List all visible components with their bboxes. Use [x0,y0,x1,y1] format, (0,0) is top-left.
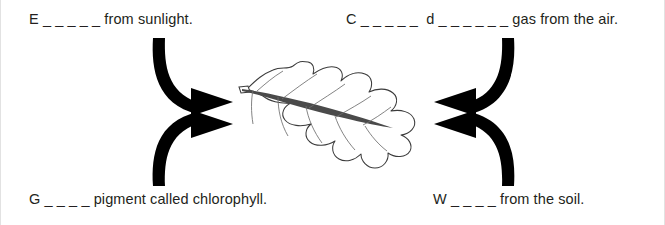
arrow-top-left-icon [153,38,233,116]
leaf-illustration [239,61,415,168]
diagram-artwork [1,0,665,225]
arrow-bottom-left-icon [153,110,233,186]
photosynthesis-diagram: E _ _ _ _ _ from sunlight. C _ _ _ _ _ d… [0,0,665,225]
arrow-top-right-icon [434,38,514,116]
arrow-bottom-right-icon [434,110,514,186]
